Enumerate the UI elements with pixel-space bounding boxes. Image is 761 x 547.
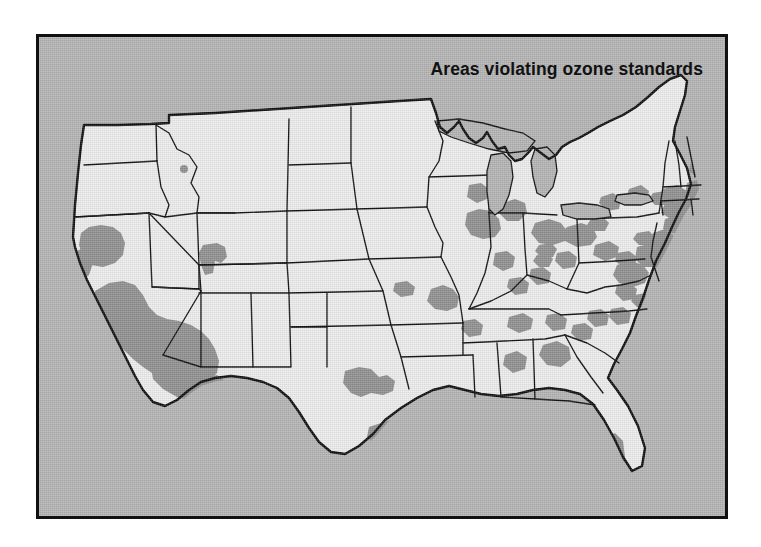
violating-area-boise [180, 165, 188, 173]
figure-container: Areas violating ozone standards [0, 0, 761, 547]
map-panel: Areas violating ozone standards [36, 34, 728, 519]
us-ozone-map [39, 37, 725, 516]
lake-ontario [615, 193, 653, 205]
page-title: Areas violating ozone standards [431, 59, 703, 80]
